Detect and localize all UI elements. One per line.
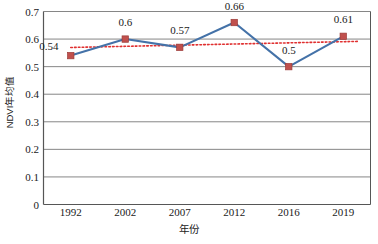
data-point-marker <box>340 33 346 39</box>
data-point-marker <box>68 52 74 58</box>
data-point-marker <box>231 19 237 25</box>
x-tick-label: 2019 <box>313 206 373 219</box>
ndvi-line-chart: NDVI年均值 00.10.20.30.40.50.60.7 0.540.60.… <box>0 0 378 244</box>
x-tick-label: 2007 <box>150 206 210 219</box>
gridlines <box>44 12 371 177</box>
x-axis-title: 年份 <box>0 221 378 236</box>
data-point-marker <box>177 44 183 50</box>
x-axis-tick-labels: 199220022007201220162019 <box>0 206 378 222</box>
axis-frame <box>44 12 371 205</box>
x-tick-label: 2012 <box>204 206 264 219</box>
x-tick-label: 2002 <box>95 206 155 219</box>
x-tick-label: 2016 <box>259 206 319 219</box>
data-point-marker <box>122 36 128 42</box>
data-point-marker <box>286 63 292 69</box>
x-tick-label: 1992 <box>41 206 101 219</box>
